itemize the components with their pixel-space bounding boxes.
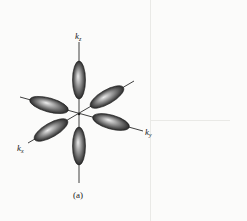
- lobe-ky-positive: [91, 110, 131, 134]
- figure-caption: (a): [73, 191, 83, 200]
- lobe-kz-positive: [73, 61, 86, 99]
- lobe-kz-negative: [73, 127, 86, 165]
- kx-axis-label: kx: [17, 144, 24, 154]
- kx-label-sub: x: [21, 148, 24, 154]
- kz-axis-label: kz: [75, 32, 81, 42]
- lobe-kx-negative: [87, 81, 127, 112]
- lobe-ky-negative: [28, 93, 70, 117]
- ky-label-sub: y: [149, 132, 152, 138]
- origin-point: [78, 113, 81, 116]
- kz-label-sub: z: [79, 36, 81, 42]
- diagram-canvas: [0, 0, 247, 221]
- ky-axis-label: ky: [145, 128, 152, 138]
- lobe-kx-positive: [31, 114, 71, 145]
